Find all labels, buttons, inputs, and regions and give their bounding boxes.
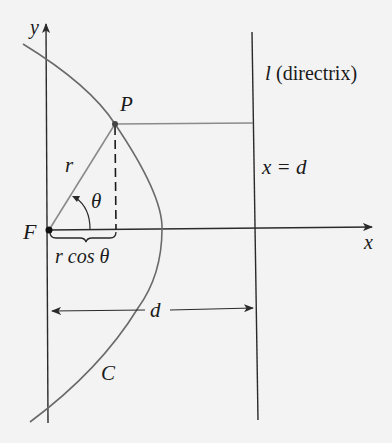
y-axis bbox=[46, 24, 48, 423]
focus-label: F bbox=[22, 219, 37, 244]
angle-arrow-icon bbox=[72, 196, 80, 202]
distance-to-directrix-line bbox=[115, 123, 253, 124]
x-axis-label: x bbox=[363, 231, 373, 253]
directrix-l-label: l bbox=[265, 61, 271, 85]
focus-point bbox=[46, 227, 53, 234]
y-axis-label: y bbox=[28, 16, 39, 39]
x-axis bbox=[48, 227, 372, 230]
radius-label: r bbox=[65, 153, 74, 177]
point-p-label: P bbox=[119, 92, 133, 116]
directrix-text-label: (directrix) bbox=[276, 62, 357, 85]
curve-label: C bbox=[101, 361, 116, 385]
point-p bbox=[112, 121, 118, 127]
distance-label: d bbox=[150, 298, 161, 322]
projection-brace bbox=[50, 232, 116, 242]
distance-arrow-right bbox=[170, 308, 253, 310]
directrix-line bbox=[252, 32, 258, 420]
distance-arrow-left bbox=[52, 310, 145, 311]
radius-line bbox=[49, 124, 115, 230]
projection-label: r cos θ bbox=[55, 245, 109, 267]
projection-dashed-line bbox=[115, 126, 116, 229]
directrix-equation-label: x = d bbox=[261, 155, 307, 179]
conic-curve bbox=[23, 44, 162, 422]
angle-label: θ bbox=[91, 189, 101, 213]
angle-arc bbox=[76, 198, 90, 229]
conic-polar-diagram: y x P F r θ r cos θ l (directrix) x = d … bbox=[0, 0, 392, 443]
